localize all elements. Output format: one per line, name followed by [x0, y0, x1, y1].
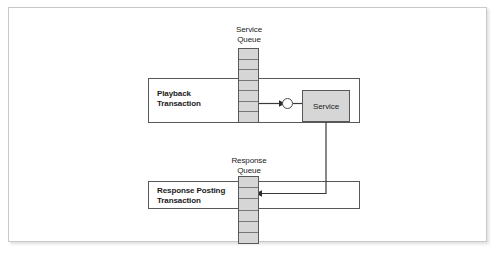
service-component-box: Service	[302, 90, 350, 122]
diagram-area: Playback Transaction Response Posting Tr…	[9, 8, 488, 243]
queue-cell	[239, 81, 258, 92]
playback-transaction-label: Playback Transaction	[157, 89, 237, 108]
response-queue-caption: Response Queue	[214, 156, 284, 175]
service-component-label: Service	[313, 102, 339, 111]
queue-cell	[239, 233, 258, 243]
queue-cell	[239, 60, 258, 71]
queue-cell	[239, 222, 258, 233]
response-posting-transaction-label: Response Posting Transaction	[157, 186, 247, 205]
queue-cell	[239, 70, 258, 81]
figure-frame: Playback Transaction Response Posting Tr…	[8, 7, 487, 242]
service-queue	[238, 48, 259, 123]
queue-cell	[239, 211, 258, 222]
service-queue-caption: Service Queue	[214, 25, 284, 44]
figure-canvas: Playback Transaction Response Posting Tr…	[0, 0, 502, 258]
queue-cell	[239, 102, 258, 113]
queue-cell	[239, 91, 258, 102]
queue-cell	[239, 49, 258, 60]
connector-node-icon	[282, 98, 293, 109]
queue-cell	[239, 112, 258, 122]
